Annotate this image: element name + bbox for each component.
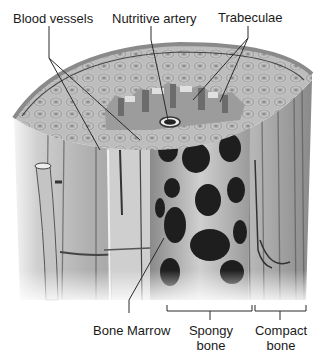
bone-illustration — [0, 0, 326, 362]
label-compact-bone-line2: bone — [252, 338, 310, 353]
bottom-fade — [0, 270, 326, 306]
label-blood-vessels: Blood vessels — [13, 11, 93, 26]
label-compact-bone: Compact bone — [252, 323, 310, 353]
label-nutritive-artery: Nutritive artery — [112, 11, 197, 26]
bone-diagram: Blood vessels Nutritive artery Trabecula… — [0, 0, 326, 362]
label-spongy-bone-line2: bone — [186, 338, 236, 353]
label-spongy-bone: Spongy bone — [186, 323, 236, 353]
label-trabeculae: Trabeculae — [218, 10, 283, 25]
bracket-spongy-bone — [167, 305, 252, 320]
label-spongy-bone-line1: Spongy — [186, 323, 236, 338]
label-bone-marrow: Bone Marrow — [93, 323, 170, 338]
label-compact-bone-line1: Compact — [252, 323, 310, 338]
bracket-compact-bone — [255, 305, 306, 320]
